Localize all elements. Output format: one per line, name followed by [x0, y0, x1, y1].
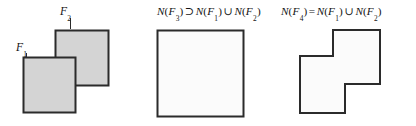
superset-square-graphic	[140, 0, 276, 126]
superset-square-panel: N(F3)⊃N(F1)∪N(F2)	[140, 0, 276, 126]
label-f1: F1	[16, 42, 27, 54]
step-polygon-n-f4-shape	[300, 30, 380, 113]
figure-canvas: F2 F1 N(F3)⊃N(F1)∪N(F2) N(F4)=N(F1)∪N(F2…	[0, 0, 416, 126]
leader-line-f1	[26, 53, 27, 58]
square-f1-shape	[24, 58, 76, 113]
label-f2: F2	[60, 6, 71, 18]
union-polygon-graphic	[276, 0, 416, 126]
overlapping-squares-panel: F2 F1	[0, 0, 140, 126]
union-polygon-panel: N(F4)=N(F1)∪N(F2)	[276, 0, 416, 126]
leader-line-f2	[70, 18, 71, 29]
square-n-f3-shape	[158, 31, 244, 117]
